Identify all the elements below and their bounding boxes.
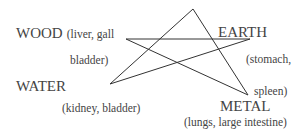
water-organs: (kidney, bladder)	[62, 103, 140, 115]
five-elements-diagram: WOOD (liver, gall bladder) EARTH (stomac…	[0, 0, 306, 134]
wood-label: WOOD (liver, gall	[16, 25, 114, 41]
wood-name: WOOD	[16, 25, 63, 41]
earth-name: EARTH	[218, 25, 267, 40]
metal-name: METAL	[220, 99, 270, 114]
edge-top-water	[110, 9, 193, 84]
wood-organs-line1: (liver, gall	[67, 28, 114, 40]
earth-organs-line1: (stomach,	[246, 54, 291, 66]
water-name: WATER	[16, 79, 66, 94]
earth-organs-line2: spleen)	[254, 86, 287, 98]
metal-organs: (lungs, large intestine)	[184, 117, 287, 129]
wood-organs-line2: bladder)	[70, 55, 108, 67]
edge-water-earth	[110, 39, 250, 84]
